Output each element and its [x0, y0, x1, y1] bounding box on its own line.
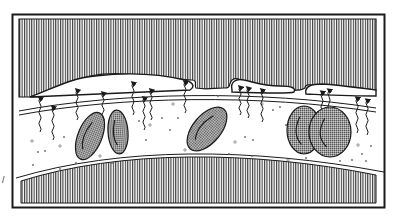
- plasma-particle: [111, 162, 113, 164]
- plasma-particle: [138, 120, 140, 122]
- plasma-particle: [252, 139, 254, 141]
- plasma-particle: [37, 151, 39, 153]
- vessel-diagram: /: [0, 0, 394, 219]
- plasma-particle: [228, 153, 230, 155]
- red-blood-cell: [309, 107, 351, 157]
- plasma-particle: [177, 117, 179, 119]
- plasma-particle: [63, 136, 65, 138]
- plasma-particle: [365, 160, 367, 162]
- plasma-particle: [145, 139, 147, 141]
- plasma-particle: [44, 150, 46, 152]
- plasma-particle: [361, 153, 363, 155]
- plasma-particle: [339, 160, 341, 162]
- plasma-particle: [244, 136, 246, 138]
- plasma-particle: [370, 145, 372, 147]
- plasma-particle: [59, 168, 61, 170]
- plasma-particle: [272, 109, 274, 111]
- plasma-particle: [251, 155, 253, 157]
- plasma-particle: [32, 164, 34, 166]
- plasma-particle: [169, 129, 171, 131]
- diagram-canvas: /: [0, 0, 394, 219]
- side-mark: /: [2, 175, 5, 185]
- plasma-particle: [305, 157, 307, 159]
- plasma-particle: [217, 95, 219, 97]
- plasma-particle: [351, 159, 353, 161]
- plasma-particle: [161, 117, 163, 119]
- plasma-particle: [75, 162, 77, 164]
- plasma-particle: [279, 106, 281, 108]
- plasma-particle: [285, 124, 287, 126]
